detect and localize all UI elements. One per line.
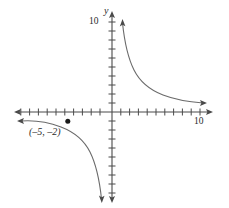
hyperbola-graph-figure: y 10 10 (–5, –2) (0, 0, 229, 208)
plotted-point-marker (65, 119, 70, 124)
coordinate-plane-svg (0, 0, 229, 208)
x-axis-tick-label-10: 10 (194, 117, 204, 127)
point-coordinate-label: (–5, –2) (29, 127, 61, 137)
curve-branch-quadrant-1 (123, 23, 204, 103)
y-axis-tick-label-10: 10 (89, 17, 99, 27)
y-axis-label: y (104, 6, 108, 16)
